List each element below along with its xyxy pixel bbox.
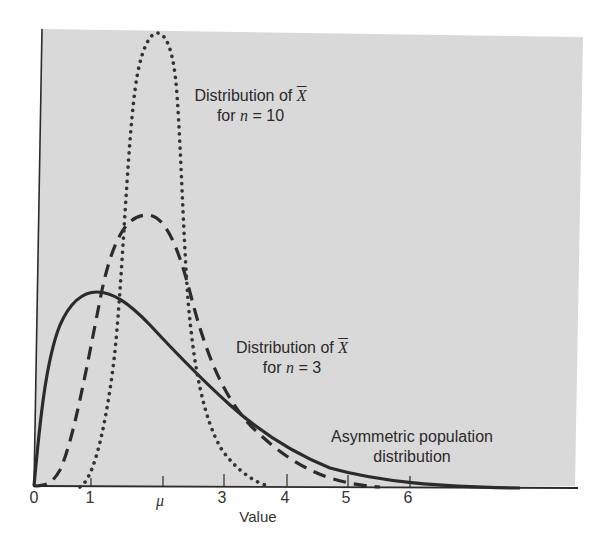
label-text: Distribution of [194,87,296,104]
population-label: Asymmetric population distribution [322,427,502,467]
n3-label-line1: Distribution of X [224,338,360,358]
population-label-line2: distribution [322,447,502,467]
label-text: for [217,107,240,124]
tick-label-0: 0 [30,489,39,507]
label-text: Distribution of [236,339,338,356]
n-variable: n [240,107,248,124]
n-variable: n [286,359,294,376]
tick-label-4: 4 [281,489,290,507]
tick-label-6: 6 [404,489,413,507]
label-text: = 3 [294,359,321,376]
label-text: = 10 [248,107,284,124]
population-label-line1: Asymmetric population [322,427,502,447]
tick-label-3: 3 [218,489,227,507]
label-text: for [263,359,286,376]
tick-label-mu: μ [156,492,164,510]
x-axis-title: Value [239,508,276,525]
n10-label: Distribution of X for n = 10 [183,86,318,126]
n10-label-line1: Distribution of X [183,86,318,106]
n3-label: Distribution of X for n = 3 [224,338,360,378]
xbar-symbol: X [338,339,348,356]
xbar-symbol: X [297,87,307,104]
tick-label-5: 5 [342,489,351,507]
n10-label-line2: for n = 10 [183,106,318,126]
n3-label-line2: for n = 3 [224,358,360,378]
chart-canvas [0,0,606,551]
tick-label-1: 1 [86,489,95,507]
